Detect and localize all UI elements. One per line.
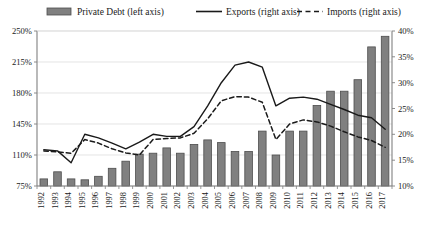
bar-2001	[163, 148, 171, 186]
x-tick-label-2011: 2011	[296, 192, 305, 208]
bar-1999	[136, 154, 144, 186]
x-tick-label-2014: 2014	[337, 191, 346, 209]
x-tick-label-2015: 2015	[351, 192, 360, 209]
x-tick-label-2016: 2016	[365, 192, 374, 209]
x-tick-label-1996: 1996	[91, 192, 100, 209]
x-tick-label-2004: 2004	[201, 191, 210, 209]
legend-label-0: Private Debt (left axis)	[77, 7, 164, 18]
bar-1993	[54, 172, 62, 186]
x-tick-label-2012: 2012	[310, 192, 319, 209]
x-tick-label-2013: 2013	[324, 192, 333, 209]
bar-2011	[299, 131, 307, 186]
left-tick-label: 110%	[12, 150, 32, 160]
left-tick-label: 180%	[12, 88, 32, 98]
right-tick-label: 40%	[398, 26, 414, 36]
bar-2008	[259, 131, 267, 186]
bar-2007	[245, 152, 253, 187]
bar-2015	[354, 80, 362, 186]
x-tick-label-2000: 2000	[146, 192, 155, 209]
bar-1998	[122, 161, 130, 186]
x-tick-label-1997: 1997	[105, 192, 114, 209]
bar-2003	[190, 144, 198, 186]
chart-container: Private Debt (left axis)Exports (right a…	[0, 0, 431, 234]
x-tick-label-2008: 2008	[255, 192, 264, 209]
x-tick-label-2005: 2005	[214, 192, 223, 209]
right-tick-label: 10%	[398, 181, 414, 191]
x-tick-label-1993: 1993	[51, 192, 60, 209]
left-tick-label: 145%	[12, 119, 32, 129]
x-tick-label-1995: 1995	[78, 192, 87, 209]
right-tick-label: 15%	[398, 155, 414, 165]
x-tick-label-2003: 2003	[187, 192, 196, 209]
bar-2006	[231, 152, 239, 187]
right-tick-label: 35%	[398, 52, 414, 62]
bar-2002	[177, 153, 185, 186]
x-tick-label-2009: 2009	[269, 192, 278, 209]
bar-2010	[286, 131, 294, 186]
bar-2012	[313, 105, 321, 186]
legend-label-2: Imports (right axis)	[327, 7, 401, 18]
x-tick-label-2002: 2002	[173, 192, 182, 209]
x-tick-label-2017: 2017	[378, 192, 387, 209]
bar-2005	[218, 143, 226, 186]
x-tick-label-2001: 2001	[160, 192, 169, 209]
bar-2014	[340, 91, 348, 186]
legend-bar-swatch-icon	[47, 8, 71, 15]
bar-2017	[381, 36, 389, 186]
bar-2009	[272, 155, 280, 186]
bar-2016	[368, 47, 376, 186]
bar-2004	[204, 140, 212, 186]
x-tick-label-2010: 2010	[283, 192, 292, 209]
bar-1996	[95, 176, 103, 186]
bar-2000	[149, 153, 157, 186]
right-tick-label: 20%	[398, 129, 414, 139]
x-tick-label-1992: 1992	[37, 192, 46, 209]
left-tick-label: 215%	[12, 57, 32, 67]
x-tick-label-1998: 1998	[119, 192, 128, 209]
bar-1992	[40, 179, 48, 186]
bar-1995	[81, 180, 89, 186]
x-tick-label-2006: 2006	[228, 192, 237, 209]
right-tick-label: 30%	[398, 78, 414, 88]
bar-1997	[108, 168, 116, 186]
left-tick-label: 75%	[16, 181, 32, 191]
private-debt-trade-chart: Private Debt (left axis)Exports (right a…	[0, 0, 431, 234]
legend-label-1: Exports (right axis)	[226, 7, 300, 18]
x-tick-label-1994: 1994	[64, 191, 73, 209]
right-tick-label: 25%	[398, 104, 414, 114]
x-tick-label-2007: 2007	[242, 192, 251, 209]
left-tick-label: 250%	[12, 26, 32, 36]
bar-1994	[67, 179, 75, 186]
x-tick-label-1999: 1999	[132, 192, 141, 209]
